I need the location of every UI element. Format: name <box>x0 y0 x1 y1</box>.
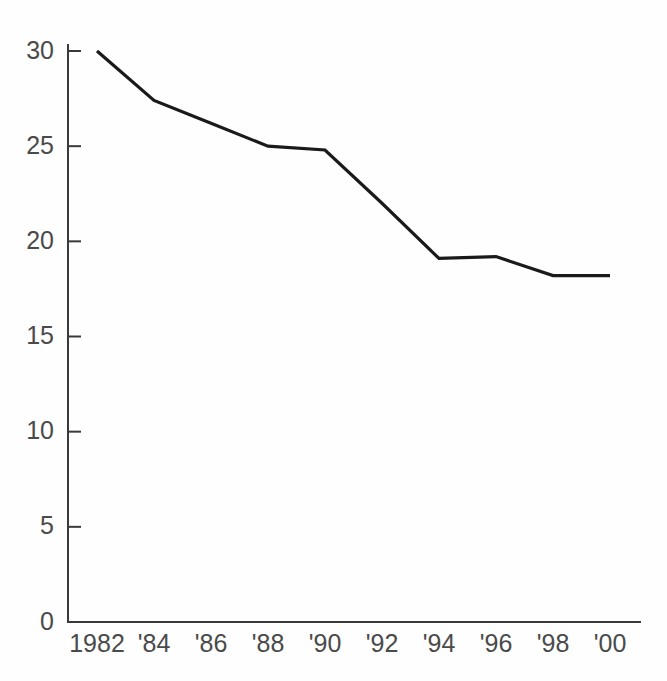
x-tick-label: '88 <box>252 629 285 657</box>
x-tick-label: '84 <box>138 629 171 657</box>
x-axis-labels: 1982'84'86'88'90'92'94'96'98'00 <box>69 629 626 657</box>
x-tick-label: '96 <box>480 629 513 657</box>
data-series <box>97 51 610 276</box>
y-tick-label: 30 <box>26 36 54 64</box>
chart-container: 051015202530 1982'84'86'88'90'92'94'96'9… <box>0 0 667 681</box>
x-tick-label: '00 <box>594 629 627 657</box>
y-axis-ticks: 051015202530 <box>26 36 81 635</box>
y-tick-label: 5 <box>40 511 54 539</box>
y-tick-label: 15 <box>26 321 54 349</box>
y-tick-label: 20 <box>26 226 54 254</box>
x-tick-label: '86 <box>195 629 228 657</box>
x-tick-label: 1982 <box>69 629 125 657</box>
y-tick-label: 10 <box>26 416 54 444</box>
x-tick-label: '94 <box>423 629 456 657</box>
y-tick-label: 25 <box>26 131 54 159</box>
chart-axes <box>68 45 640 622</box>
y-tick-label: 0 <box>40 607 54 635</box>
line-chart-svg: 051015202530 1982'84'86'88'90'92'94'96'9… <box>0 0 667 681</box>
x-tick-label: '90 <box>309 629 342 657</box>
x-tick-label: '98 <box>537 629 570 657</box>
x-tick-label: '92 <box>366 629 399 657</box>
data-series-line <box>97 51 610 276</box>
